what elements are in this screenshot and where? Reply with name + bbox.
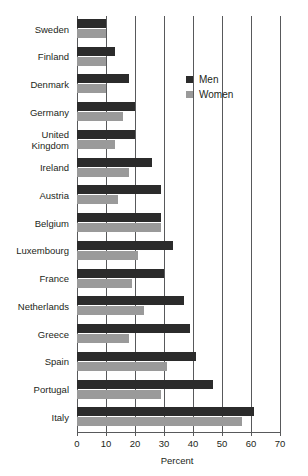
bar-row: [77, 352, 280, 376]
legend-label-women: Women: [199, 89, 233, 100]
bar-women: [77, 417, 242, 426]
bar-men: [77, 213, 161, 222]
x-tick-50: [222, 432, 223, 436]
bar-row: [77, 158, 280, 182]
bar-men: [77, 380, 213, 389]
bar-men: [77, 296, 184, 305]
legend-swatch-women-icon: [186, 91, 193, 98]
category-label: Italy: [52, 413, 69, 424]
bar-row: [77, 74, 280, 98]
bar-men: [77, 324, 190, 333]
bar-women: [77, 251, 138, 260]
bar-women: [77, 306, 144, 315]
x-tick-label: 60: [246, 438, 257, 449]
legend-item-men: Men: [186, 72, 233, 87]
x-tick-label: 70: [275, 438, 286, 449]
category-label: Greece: [38, 330, 69, 341]
x-tick-0: [77, 432, 78, 436]
bar-men: [77, 74, 129, 83]
x-axis-title: Percent: [0, 455, 308, 466]
bar-row: [77, 130, 280, 154]
bar-row: [77, 102, 280, 126]
x-tick-label: 0: [74, 438, 79, 449]
bar-rows: [77, 16, 280, 432]
bar-women: [77, 112, 123, 121]
bar-women: [77, 168, 129, 177]
x-axis-title-text: Percent: [161, 455, 194, 466]
bar-row: [77, 407, 280, 431]
bar-women: [77, 84, 106, 93]
bar-row: [77, 19, 280, 43]
category-axis: SwedenFinlandDenmarkGermanyUnited Kingdo…: [0, 16, 74, 432]
x-tick-40: [193, 432, 194, 436]
bar-row: [77, 47, 280, 71]
bar-row: [77, 380, 280, 404]
gridline-70: [280, 16, 281, 432]
legend-item-women: Women: [186, 87, 233, 102]
category-label: Denmark: [30, 80, 69, 91]
category-label: France: [39, 274, 69, 285]
category-label: Portugal: [34, 385, 69, 396]
bar-women: [77, 195, 118, 204]
bar-row: [77, 213, 280, 237]
x-tick-30: [164, 432, 165, 436]
bar-women: [77, 279, 132, 288]
legend-label-men: Men: [199, 74, 218, 85]
category-label: Sweden: [35, 25, 69, 36]
bar-men: [77, 185, 161, 194]
bar-men: [77, 158, 152, 167]
bar-women: [77, 362, 167, 371]
x-tick-label: 30: [159, 438, 170, 449]
bar-men: [77, 352, 196, 361]
x-tick-70: [280, 432, 281, 436]
bar-women: [77, 334, 129, 343]
category-label: United Kingdom: [32, 130, 70, 151]
bar-row: [77, 324, 280, 348]
category-label: Luxembourg: [16, 246, 69, 257]
category-label: Austria: [39, 191, 69, 202]
bar-men: [77, 19, 106, 28]
category-label: Finland: [38, 52, 69, 63]
x-tick-label: 40: [188, 438, 199, 449]
category-label: Netherlands: [18, 302, 69, 313]
bar-row: [77, 185, 280, 209]
bar-men: [77, 241, 173, 250]
x-tick-10: [106, 432, 107, 436]
x-tick-20: [135, 432, 136, 436]
x-tick-label: 10: [101, 438, 112, 449]
bar-women: [77, 57, 106, 66]
category-label: Spain: [45, 357, 69, 368]
bar-row: [77, 241, 280, 265]
bar-men: [77, 102, 135, 111]
bar-men: [77, 47, 115, 56]
plot-area: [77, 16, 280, 432]
bar-row: [77, 296, 280, 320]
legend: Men Women: [186, 72, 233, 102]
category-label: Belgium: [35, 219, 69, 230]
bar-men: [77, 407, 254, 416]
bar-women: [77, 390, 161, 399]
legend-swatch-men-icon: [186, 76, 193, 83]
category-label: Ireland: [40, 163, 69, 174]
bar-men: [77, 269, 164, 278]
bar-row: [77, 269, 280, 293]
x-tick-60: [251, 432, 252, 436]
x-tick-label: 50: [217, 438, 228, 449]
bar-women: [77, 140, 115, 149]
x-tick-label: 20: [130, 438, 141, 449]
category-label: Germany: [30, 108, 69, 119]
bar-men: [77, 130, 135, 139]
bar-women: [77, 223, 161, 232]
bar-women: [77, 29, 106, 38]
bar-chart: SwedenFinlandDenmarkGermanyUnited Kingdo…: [0, 0, 308, 476]
